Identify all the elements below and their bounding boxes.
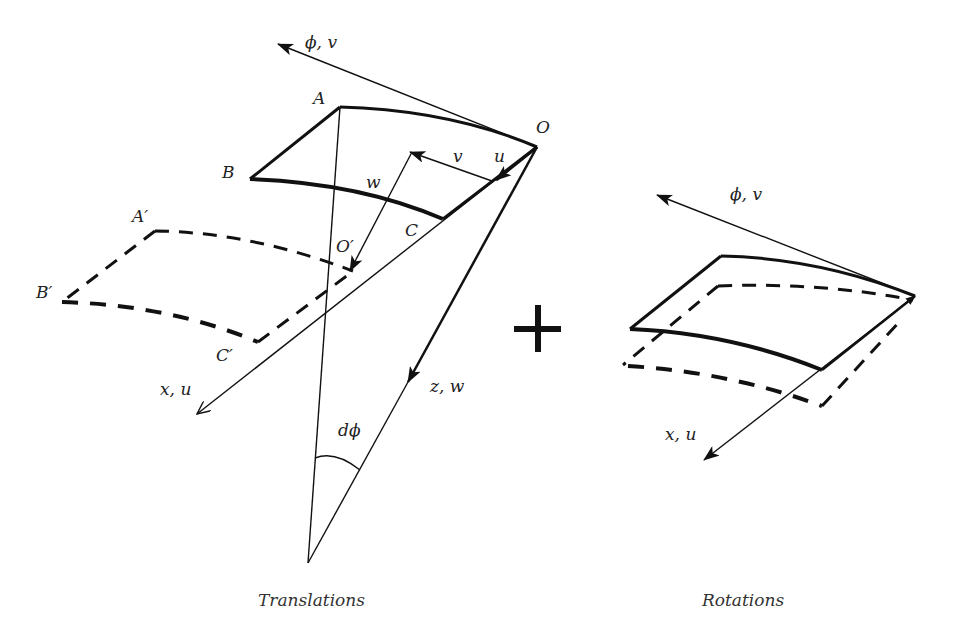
- point-O-label: O: [536, 117, 550, 137]
- element-edge-AB: [250, 107, 340, 179]
- x-u-label-rotations: x, u: [665, 424, 696, 444]
- element-edge-BC: [250, 179, 443, 219]
- z-w-label: z, w: [429, 376, 465, 396]
- element-edge-AO: [340, 107, 537, 147]
- x-u-axis-rotations: [704, 296, 915, 460]
- d-phi-arc: [315, 456, 360, 470]
- z-w-axis-arrow: [408, 147, 537, 382]
- u-label: u: [494, 146, 505, 166]
- displaced-edge-BC: [62, 302, 258, 342]
- rot-element-edge-left: [630, 256, 721, 329]
- rot-displaced-edge-right: [822, 320, 901, 406]
- displaced-edge-AB: [62, 231, 155, 302]
- phi-v-label: ϕ, v: [305, 32, 337, 52]
- rot-displaced-edge-bottom: [628, 366, 822, 406]
- radius-line-A: [308, 107, 340, 563]
- v-arrow: [410, 152, 492, 181]
- point-B-label: B: [221, 162, 235, 182]
- point-O-prime-label: O′: [336, 236, 354, 256]
- point-A-label: A: [311, 88, 325, 108]
- w-label: w: [366, 172, 381, 192]
- z-w-axis: [308, 382, 408, 563]
- rotations-panel: ϕ, v x, u Rotations: [623, 184, 915, 610]
- point-B-prime-label: B′: [35, 282, 52, 302]
- plus-operator: [514, 305, 561, 352]
- rotations-caption: Rotations: [701, 590, 784, 610]
- shell-element-diagram: ϕ, v A O B C v u w A′ B′ C′ O′ x, u z, w: [0, 0, 954, 629]
- d-phi-label: dϕ: [338, 420, 361, 440]
- point-C-label: C: [405, 220, 418, 240]
- v-label: v: [453, 146, 463, 166]
- x-u-label: x, u: [160, 379, 191, 399]
- displaced-edge-CO: [258, 272, 352, 342]
- translations-caption: Translations: [258, 590, 365, 610]
- rot-displaced-edge-top: [718, 285, 913, 300]
- point-A-prime-label: A′: [130, 206, 148, 226]
- point-C-prime-label: C′: [216, 345, 233, 365]
- translations-panel: ϕ, v A O B C v u w A′ B′ C′ O′ x, u z, w: [35, 32, 550, 610]
- displaced-edge-AO: [155, 231, 353, 271]
- phi-v-label-rotations: ϕ, v: [730, 184, 762, 204]
- rot-element-edge-top: [721, 256, 915, 296]
